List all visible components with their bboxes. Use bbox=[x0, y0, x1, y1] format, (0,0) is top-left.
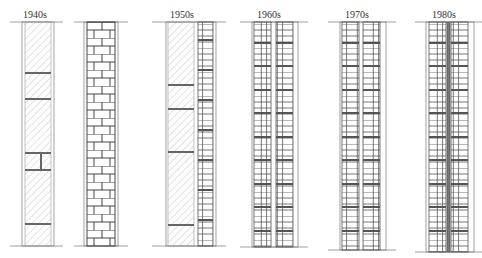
wall-1940s-stone bbox=[22, 22, 54, 246]
wall-sections-diagram bbox=[0, 0, 482, 258]
bottom-lines bbox=[10, 246, 482, 252]
wall-1970s bbox=[340, 22, 386, 250]
wall-1940s-brick bbox=[84, 22, 118, 246]
wall-1950s bbox=[166, 22, 216, 246]
wall-1980s bbox=[426, 22, 474, 252]
wall-1960s bbox=[252, 22, 298, 247]
